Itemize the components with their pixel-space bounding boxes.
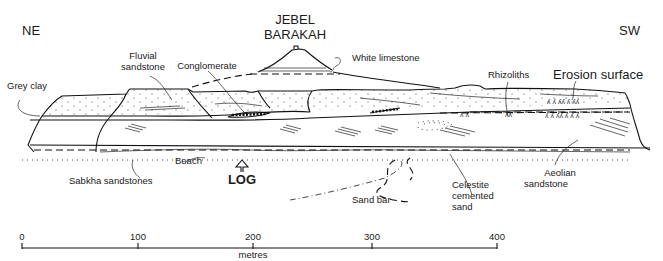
erosion-surface-label: Erosion surface xyxy=(553,67,643,82)
sabkha-sandstones-label: Sabkha sandstones xyxy=(69,175,153,186)
sand-bar-label: Sand bar xyxy=(352,194,391,205)
svg-text:ʎ ʎ: ʎ ʎ xyxy=(460,111,469,118)
beach-label: Beach xyxy=(175,155,202,166)
celestite-label-2: cemented xyxy=(452,190,494,201)
fluvial-sandstone-label-1: Fluvial xyxy=(129,50,156,61)
fluvial-sandstone-unit xyxy=(40,85,630,118)
svg-text:ʎ ʎ ʎʎ ʎ ʎ ʎ: ʎ ʎ ʎʎ ʎ ʎ ʎ xyxy=(545,112,580,119)
title-line-1: JEBEL xyxy=(275,12,315,27)
scale-tick-0: 0 xyxy=(19,231,24,242)
log-position-marker: LOG xyxy=(228,160,256,187)
scale-tick-400: 400 xyxy=(489,231,505,242)
grey-clay-label: Grey clay xyxy=(7,80,47,91)
cross-section-diagram: ʎ ʎ ʎʎ ʎ ʎʎ ʎ ʎ ʎʎ ʎ ʎ ʎʎ ʎ ʎ ʎ NE SW JE… xyxy=(0,0,663,261)
orientation-ne-label: NE xyxy=(22,23,40,38)
aeolian-sandstone-label-1: Aeolian xyxy=(544,167,576,178)
scale-bar: 0 100 200 300 400 metres xyxy=(19,231,505,260)
scale-tick-200: 200 xyxy=(245,231,261,242)
rhizoliths-label: Rhizoliths xyxy=(488,69,529,80)
conglomerate-label: Conglomerate xyxy=(177,60,237,71)
log-label: LOG xyxy=(228,172,256,187)
celestite-label-3: sand xyxy=(452,201,473,212)
title-line-2: BARAKAH xyxy=(264,27,326,42)
svg-text:ʎ ʎ ʎʎ ʎ ʎʎ: ʎ ʎ ʎʎ ʎ ʎʎ xyxy=(547,98,580,105)
white-limestone-label: White limestone xyxy=(352,52,420,63)
cross-bedding-marks xyxy=(125,118,630,136)
fluvial-sandstone-label-2: sandstone xyxy=(121,61,165,72)
scale-unit-label: metres xyxy=(238,249,267,260)
svg-text:ʎʎ: ʎʎ xyxy=(505,111,513,118)
scale-tick-300: 300 xyxy=(364,231,380,242)
aeolian-sandstone-label-2: sandstone xyxy=(524,178,568,189)
orientation-sw-label: SW xyxy=(619,23,641,38)
celestite-label-1: Celestite xyxy=(452,179,489,190)
scale-tick-100: 100 xyxy=(130,231,146,242)
